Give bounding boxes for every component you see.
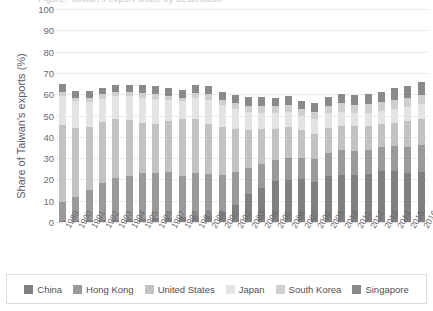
stacked-bar[interactable] [219, 92, 226, 222]
legend-item-japan[interactable]: Japan [226, 284, 265, 295]
bar-segment[interactable] [311, 112, 318, 119]
bar-segment[interactable] [285, 127, 292, 158]
bar-segment[interactable] [404, 86, 411, 98]
stacked-bar[interactable] [391, 88, 398, 222]
bar-segment[interactable] [86, 91, 93, 98]
stacked-bar[interactable] [152, 86, 159, 222]
bar-segment[interactable] [404, 98, 411, 107]
bar-slot[interactable] [375, 9, 388, 222]
bar-segment[interactable] [418, 119, 425, 145]
bar-segment[interactable] [72, 101, 79, 127]
bar-segment[interactable] [298, 101, 305, 110]
stacked-bar[interactable] [245, 97, 252, 222]
bar-segment[interactable] [258, 164, 265, 188]
bar-segment[interactable] [59, 202, 66, 221]
bar-slot[interactable] [269, 9, 282, 222]
stacked-bar[interactable] [272, 98, 279, 222]
bar-segment[interactable] [391, 123, 398, 146]
bar-segment[interactable] [59, 125, 66, 202]
bar-segment[interactable] [311, 159, 318, 181]
bar-slot[interactable] [255, 9, 268, 222]
bar-segment[interactable] [179, 101, 186, 119]
bar-segment[interactable] [404, 147, 411, 173]
bar-slot[interactable] [162, 9, 175, 222]
bar-segment[interactable] [112, 96, 119, 119]
bar-segment[interactable] [311, 134, 318, 160]
bar-segment[interactable] [219, 105, 226, 127]
stacked-bar[interactable] [285, 96, 292, 222]
bar-segment[interactable] [298, 116, 305, 130]
bar-slot[interactable] [56, 9, 69, 222]
bar-segment[interactable] [418, 104, 425, 119]
bar-segment[interactable] [139, 85, 146, 92]
bar-segment[interactable] [192, 98, 199, 119]
bar-segment[interactable] [272, 160, 279, 181]
bar-segment[interactable] [418, 145, 425, 172]
bar-slot[interactable] [189, 9, 202, 222]
stacked-bar[interactable] [179, 90, 186, 222]
bar-segment[interactable] [325, 106, 332, 113]
bar-segment[interactable] [126, 120, 133, 176]
bar-segment[interactable] [72, 91, 79, 98]
bar-segment[interactable] [152, 86, 159, 94]
bar-segment[interactable] [298, 158, 305, 180]
bar-slot[interactable] [335, 9, 348, 222]
bar-segment[interactable] [378, 102, 385, 111]
bar-slot[interactable] [109, 9, 122, 222]
legend-item-china[interactable]: China [24, 284, 62, 295]
bar-segment[interactable] [378, 92, 385, 102]
bar-segment[interactable] [99, 99, 106, 122]
bar-segment[interactable] [365, 126, 372, 149]
bar-slot[interactable] [96, 9, 109, 222]
bar-segment[interactable] [192, 119, 199, 173]
bar-segment[interactable] [179, 90, 186, 98]
stacked-bar[interactable] [72, 91, 79, 222]
bar-segment[interactable] [298, 130, 305, 158]
bar-slot[interactable] [388, 9, 401, 222]
bar-segment[interactable] [165, 100, 172, 120]
bar-segment[interactable] [258, 113, 265, 129]
legend-item-hong-kong[interactable]: Hong Kong [73, 284, 134, 295]
bar-segment[interactable] [152, 99, 159, 124]
bar-segment[interactable] [311, 103, 318, 112]
bar-slot[interactable] [149, 9, 162, 222]
stacked-bar[interactable] [338, 94, 345, 222]
bar-segment[interactable] [152, 124, 159, 173]
bar-segment[interactable] [285, 158, 292, 180]
bar-slot[interactable] [308, 9, 321, 222]
bar-segment[interactable] [126, 85, 133, 92]
bar-segment[interactable] [365, 113, 372, 126]
bar-segment[interactable] [139, 98, 146, 123]
bar-segment[interactable] [351, 126, 358, 151]
bar-slot[interactable] [136, 9, 149, 222]
bar-segment[interactable] [59, 84, 66, 92]
bar-segment[interactable] [351, 151, 358, 175]
stacked-bar[interactable] [351, 95, 358, 222]
bar-slot[interactable] [348, 9, 361, 222]
bar-segment[interactable] [126, 96, 133, 119]
bar-segment[interactable] [245, 168, 252, 194]
stacked-bar[interactable] [139, 85, 146, 222]
bar-segment[interactable] [338, 126, 345, 150]
bar-segment[interactable] [365, 104, 372, 113]
bar-segment[interactable] [338, 112, 345, 126]
bar-segment[interactable] [378, 147, 385, 171]
stacked-bar[interactable] [325, 97, 332, 222]
bar-segment[interactable] [232, 129, 239, 173]
bar-segment[interactable] [325, 113, 332, 128]
bar-segment[interactable] [365, 150, 372, 174]
bar-segment[interactable] [418, 95, 425, 104]
bar-segment[interactable] [232, 95, 239, 104]
bar-segment[interactable] [165, 88, 172, 96]
bar-segment[interactable] [99, 88, 106, 95]
bar-segment[interactable] [205, 100, 212, 124]
bar-slot[interactable] [229, 9, 242, 222]
bar-segment[interactable] [112, 119, 119, 178]
bar-segment[interactable] [311, 119, 318, 134]
bar-segment[interactable] [112, 85, 119, 92]
bar-segment[interactable] [391, 88, 398, 100]
bar-segment[interactable] [285, 96, 292, 105]
bar-segment[interactable] [391, 146, 398, 171]
stacked-bar[interactable] [311, 103, 318, 222]
bar-segment[interactable] [378, 124, 385, 147]
